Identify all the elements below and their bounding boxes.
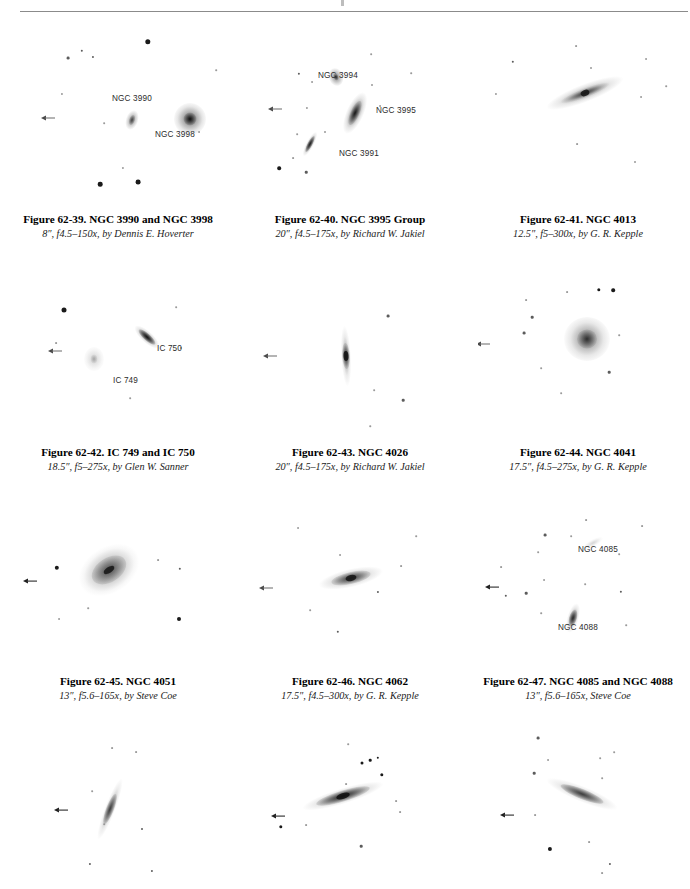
orientation-arrow [263,353,277,360]
orientation-arrow [485,584,499,591]
plate-fig-62-48 [18,726,218,889]
object-label-ngc-3998: NGC 3998 [155,130,195,139]
field-star [570,535,572,537]
orientation-arrow [271,813,285,820]
caption-subtitle: 18.5″, f5–275x, by Glen W. Sanner [8,460,228,473]
field-star [618,553,620,555]
object-label-ngc-3991: NGC 3991 [339,149,379,158]
field-star [537,737,540,740]
field-star [387,315,390,318]
field-star [324,131,326,133]
field-star [540,367,542,369]
field-star [601,777,603,779]
caption-fig-62-39: Figure 62-39. NGC 3990 and NGC 3998 8″, … [8,213,228,240]
caption-fig-62-43: Figure 62-43. NGC 4026 20″, f4.5–175x, b… [240,446,460,473]
plate-fig-62-49 [250,726,450,889]
orientation-arrow [500,812,514,819]
plate-fig-62-39 [18,26,218,208]
field-star [87,607,89,609]
caption-title: Figure 62-44. NGC 4041 [468,446,688,459]
field-star [370,53,372,55]
orientation-arrow [478,341,490,348]
field-star [410,72,412,74]
galaxy-ngc-4026 [333,315,359,396]
galaxy-core [577,330,597,349]
field-star [523,332,526,335]
field-star [135,751,137,753]
field-star [175,306,177,308]
caption-fig-62-41: Figure 62-41. NGC 4013 12.5″, f5–300x, b… [468,213,688,240]
galaxy-ic-749 [83,346,105,372]
caption-title: Figure 62-45. NGC 4051 [8,675,228,688]
field-star [91,790,93,792]
field-star [543,579,545,581]
field-star [415,535,417,537]
field-star [67,57,70,60]
field-star [608,371,611,374]
caption-fig-62-40: Figure 62-40. NGC 3995 Group 20″, f4.5–1… [240,213,460,240]
field-star [645,58,647,60]
caption-title: Figure 62-47. NGC 4085 and NGC 4088 [468,675,688,688]
field-star [576,143,578,145]
field-star [292,157,294,159]
field-star [599,757,601,759]
orientation-arrow [268,106,282,113]
field-star [590,67,592,69]
field-star [566,291,568,293]
caption-subtitle: 17.5″, f4.5–275x, by G. R. Kepple [468,460,688,473]
caption-fig-62-44: Figure 62-44. NGC 4041 17.5″, f4.5–275x,… [468,446,688,473]
field-star [531,316,534,319]
field-star [277,166,281,170]
field-star [345,783,347,785]
field-star [560,392,562,394]
object-label-ngc-4088: NGC 4088 [558,623,598,632]
caption-subtitle: 17.5″, f4.5–300x, by G. R. Kepple [240,689,460,702]
field-star [618,334,620,336]
field-star [309,609,311,611]
caption-title: Figure 62-41. NGC 4013 [468,213,688,226]
plate-fig-62-41 [478,26,678,208]
field-star [360,845,363,848]
galaxy-nucleus [343,351,349,361]
galaxy-core [91,355,98,364]
object-label-ic-750: IC 750 [157,344,182,353]
field-star [544,534,547,537]
field-star [625,624,627,626]
sky-background [18,288,218,438]
field-star [395,800,397,802]
field-star [111,747,113,749]
field-star [525,299,527,301]
field-star [588,841,590,843]
header-rule [20,11,688,12]
field-star [58,618,60,620]
field-star [371,84,373,86]
field-star [361,762,364,765]
field-star [103,823,105,825]
sky-background [478,288,678,438]
caption-title: Figure 62-40. NGC 3995 Group [240,213,460,226]
field-star [402,399,405,402]
plate-fig-62-40 [250,26,450,208]
caption-fig-62-45: Figure 62-45. NGC 4051 13″, f5.6–165x, b… [8,675,228,702]
plate-fig-62-42 [18,288,218,438]
field-star [305,171,308,174]
field-star [540,612,542,614]
caption-fig-62-42: Figure 62-42. IC 749 and IC 750 18.5″, f… [8,446,228,473]
sky-background [478,512,678,667]
page-header [0,0,690,24]
plate-fig-62-50 [478,726,678,889]
field-star [665,85,667,87]
object-label-ngc-3990: NGC 3990 [112,94,152,103]
field-star [537,551,539,553]
field-star [640,96,642,98]
caption-title: Figure 62-46. NGC 4062 [240,675,460,688]
field-star [177,617,181,621]
object-label-ngc-3995: NGC 3995 [376,106,416,115]
caption-subtitle: 12.5″, f5–300x, by G. R. Kepple [468,227,688,240]
field-star [305,824,307,826]
caption-subtitle: 13″, f5.6–165x, Steve Coe [468,689,688,702]
field-star [500,566,502,568]
field-star [347,743,349,745]
caption-title: Figure 62-39. NGC 3990 and NGC 3998 [8,213,228,226]
field-star [585,519,587,521]
